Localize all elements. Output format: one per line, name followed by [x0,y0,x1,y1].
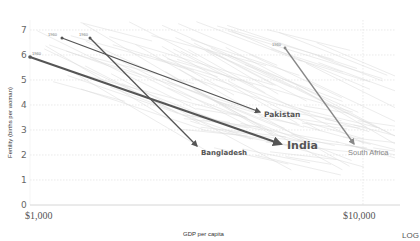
background-trail [68,71,247,118]
y-tick-4: 4 [21,100,27,110]
y-tick-1: 1 [21,175,27,185]
background-trail [162,79,285,129]
x-tick-10000: $10,000 [343,210,376,221]
background-trail [85,66,178,113]
background-trail [173,49,234,81]
background-trail [271,49,343,72]
background-trail [37,31,196,110]
y-tick-3: 3 [21,125,27,135]
y-tick-2: 2 [21,150,27,160]
south-africa-start-dot [284,47,287,50]
pakistan-start-year: 1960 [48,32,58,37]
y-tick-0: 0 [21,200,27,210]
background-trail [306,122,364,139]
background-trail [250,54,342,97]
background-trail [298,60,370,82]
background-trail [319,63,396,91]
y-axis-title: Fertility (births per woman) [7,87,13,158]
fertility-vs-gdp-chart: 01234567 $1,000 $10,000 GDP per capita F… [0,0,420,241]
y-tick-7: 7 [21,25,27,35]
india-trajectory-arrow [30,57,281,144]
y-axis-ticks: 01234567 [21,25,27,210]
background-trail [227,25,357,68]
y-tick-5: 5 [21,75,27,85]
bangladesh-label: Bangladesh [201,149,247,157]
pakistan-label: Pakistan [264,110,300,119]
background-trail [110,87,171,110]
south-africa-start-year: 1960 [272,42,282,47]
x-axis-title: GDP per capita [183,231,225,237]
bangladesh-start-dot [89,37,92,40]
south-africa-label: South Africa [348,148,389,157]
india-start-year: 1960 [32,51,42,56]
background-trail [296,86,395,143]
background-trail [286,157,331,165]
bangladesh-start-year: 1960 [79,32,89,37]
pakistan-start-dot [61,37,64,40]
south-africa-trajectory-arrow [285,48,354,144]
x-tick-1000: $1,000 [25,210,53,221]
background-trail [194,43,276,85]
background-trail [129,22,198,57]
background-trail [304,106,349,113]
y-tick-6: 6 [21,50,27,60]
background-trail [317,43,395,76]
background-trail [318,56,383,81]
pakistan-trajectory-arrow [62,38,260,112]
background-trail [71,36,194,71]
log-scale-toggle[interactable]: LOG [402,231,419,240]
background-trail [256,155,341,175]
background-trail [90,57,194,84]
india-label: India [287,139,318,152]
country-bangladesh[interactable]: 1960 Bangladesh [79,32,247,157]
